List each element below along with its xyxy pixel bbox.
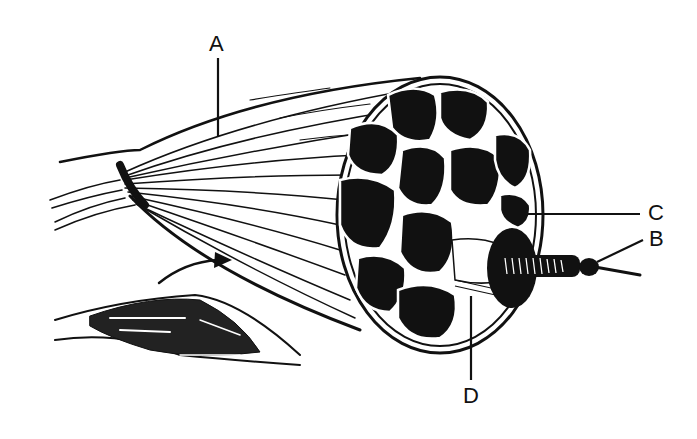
label-d: D: [463, 385, 479, 407]
muscle-diagram: A B C D: [0, 0, 697, 439]
muscle-illustration: [0, 0, 697, 439]
fascicle-cross-section: [337, 77, 543, 353]
whole-muscle-inset: [55, 252, 300, 365]
label-c: C: [648, 202, 664, 224]
label-b: B: [649, 228, 664, 250]
leader-line-b: [597, 240, 643, 262]
label-a: A: [209, 33, 224, 55]
fiber-b-protrusion: [487, 228, 640, 308]
